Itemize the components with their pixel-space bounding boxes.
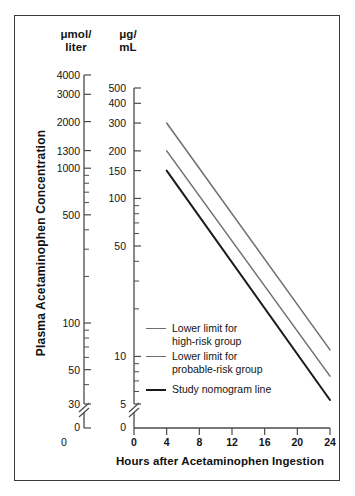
right-axis-tick-label: 200 <box>100 146 126 156</box>
left-axis-origin-label: 0 <box>40 437 88 447</box>
right-axis-tick-label: 500 <box>100 83 126 93</box>
legend-swatch-line-icon <box>146 389 166 391</box>
left-axis-zero-label: 0 <box>40 422 80 432</box>
left-axis-tick-label: 100 <box>40 318 80 328</box>
right-axis-tick-label: 50 <box>100 241 126 251</box>
x-axis-tick-label: 0 <box>124 437 144 447</box>
left-axis-tick-label: 4000 <box>40 70 80 80</box>
right-axis-tick-label: 5 <box>100 399 126 409</box>
figure-canvas: μmol/ liter μg/ mL Plasma Acetaminophen … <box>0 0 355 496</box>
x-axis-tick-label: 4 <box>157 437 177 447</box>
left-axis-tick-label: 1300 <box>40 146 80 156</box>
right-axis-tick-label: 10 <box>100 351 126 361</box>
right-axis-tick-label: 150 <box>100 166 126 176</box>
x-axis-ticks <box>134 428 330 435</box>
right-axis-zero-label: 0 <box>100 422 126 432</box>
legend-item: Study nomogram line <box>146 383 271 396</box>
legend-item: Lower limit for high-risk group <box>146 322 241 347</box>
right-axis-tick-label: 300 <box>100 118 126 128</box>
x-axis-tick-label: 24 <box>320 437 340 447</box>
x-axis-tick-label: 16 <box>255 437 275 447</box>
right-axis-ticks <box>134 88 141 404</box>
x-axis-tick-label: 8 <box>189 437 209 447</box>
legend-label: Study nomogram line <box>172 383 271 396</box>
left-axis-tick-label: 50 <box>40 365 80 375</box>
series-line <box>167 123 330 350</box>
left-axis-tick-label: 1000 <box>40 163 80 173</box>
left-axis-tick-label: 500 <box>40 210 80 220</box>
x-axis-tick-label: 20 <box>287 437 307 447</box>
left-axis-ticks <box>84 75 91 428</box>
right-axis-tick-label: 400 <box>100 98 126 108</box>
left-axis-tick-label: 2000 <box>40 117 80 127</box>
legend-swatch-line-icon <box>146 328 166 329</box>
legend-item: Lower limit for probable-risk group <box>146 350 262 375</box>
legend-label: Lower limit for probable-risk group <box>172 350 262 375</box>
legend-swatch-line-icon <box>146 356 166 357</box>
right-axis-tick-label: 100 <box>100 193 126 203</box>
x-axis-tick-label: 12 <box>222 437 242 447</box>
left-axis-tick-label: 3000 <box>40 89 80 99</box>
legend-label: Lower limit for high-risk group <box>172 322 241 347</box>
left-axis-tick-label: 30 <box>40 399 80 409</box>
